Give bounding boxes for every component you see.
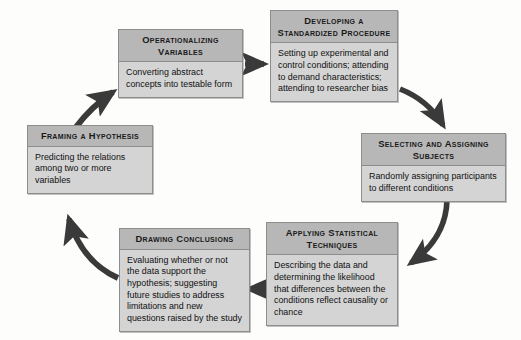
node-operationalizing-variables[interactable]: Operationalizing Variables Converting ab… xyxy=(118,29,243,98)
node-body: Randomly assigning participants to diffe… xyxy=(362,166,505,200)
node-body: Converting abstract concepts into testab… xyxy=(119,62,242,96)
arrow-conclusions-to-framing xyxy=(69,219,118,278)
node-selecting-and-assigning-subjects[interactable]: Selecting and Assigning Subjects Randoml… xyxy=(361,133,506,202)
node-body: Predicting the relations among two or mo… xyxy=(28,147,152,193)
node-title: Applying Statistical Techniques xyxy=(267,223,397,255)
node-framing-a-hypothesis[interactable]: Framing a Hypothesis Predicting the rela… xyxy=(27,125,153,194)
node-body: Evaluating whether or not the data suppo… xyxy=(120,250,249,331)
node-developing-a-standardized-procedure[interactable]: Developing a Standardized Procedure Sett… xyxy=(270,10,398,102)
node-applying-statistical-techniques[interactable]: Applying Statistical Techniques Describi… xyxy=(266,222,398,326)
node-title: Developing a Standardized Procedure xyxy=(271,11,397,43)
node-title: Drawing Conclusions xyxy=(120,229,249,250)
arrow-procedure-to-selecting xyxy=(400,89,443,125)
node-title: Framing a Hypothesis xyxy=(28,126,152,147)
node-body: Describing the data and determining the … xyxy=(267,255,397,325)
node-body: Setting up experimental and control cond… xyxy=(271,43,397,101)
node-title: Operationalizing Variables xyxy=(119,30,242,62)
node-drawing-conclusions[interactable]: Drawing Conclusions Evaluating whether o… xyxy=(119,228,250,332)
research-process-cycle-diagram: Operationalizing Variables Converting ab… xyxy=(0,0,521,340)
node-title: Selecting and Assigning Subjects xyxy=(362,134,505,166)
arrow-framing-to-operationalizing xyxy=(76,92,113,127)
arrow-selecting-to-statistical xyxy=(411,200,447,263)
